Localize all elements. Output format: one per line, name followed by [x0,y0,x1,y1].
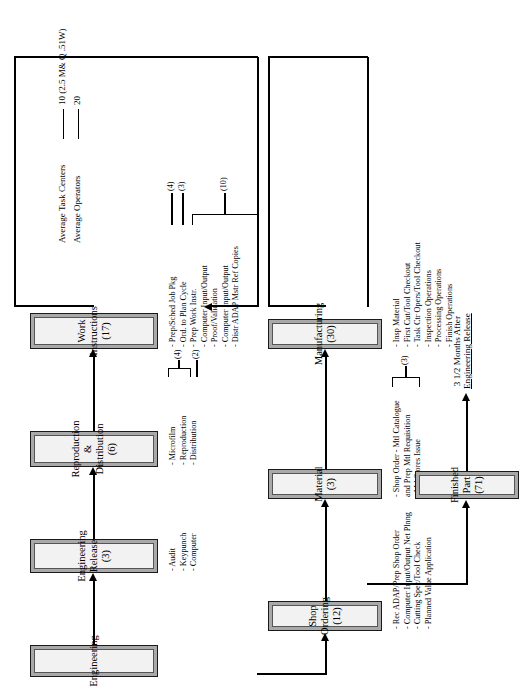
feedback-line-top [14,57,16,307]
bullets-reproduction-distribution: - Microfilm - Reproduction - Distributio… [168,416,200,465]
node-engineering-release-label: Engineering [76,530,88,581]
arrowhead-finished-part-to-note [462,393,470,401]
leader-ord-to-plan-cycle [182,193,184,225]
node-engineering-release[interactable]: Engineering Release (3) [30,539,158,573]
arrowhead-engineering-to-release [89,573,97,581]
leader-prep-sched-job-pkg [171,193,173,225]
mfg-feedback-bottom [367,57,369,307]
node-work-instructions-label2: Instructions (17) [88,306,112,356]
bullet-item: - Distr ADAP Mstr Ref Copies [231,246,242,347]
bullet-item: - Proof/Validation [210,246,221,347]
node-repro-label: Reproduction & [70,420,94,477]
connector-repro-to-work-instructions [93,355,95,431]
node-work-instructions-inner: Work Instructions (17) [34,317,154,345]
node-repro-label2: Distribution (6) [94,424,118,475]
bullet-item: - Ord. to Plan Cycle [179,246,190,347]
brace-repro-group4 [168,368,191,377]
bullet-item: - Audit [168,533,179,571]
stat-label-average-operators: Average Operators [72,175,82,243]
node-finished-part[interactable]: Finished Part (71) [415,471,519,499]
connector-material-to-manufacturing [325,355,327,469]
count-prep-sched-job-pkg: (4) [166,181,175,191]
stat-value-average-task-centers: 10 (2.5 M& Q .51W) [57,29,67,106]
node-manufacturing-label: Manufacturing (30) [313,303,337,365]
connector-corner-into-shop-ordering [257,674,327,676]
connector-into-shop-ordering [325,639,327,675]
connector-engineering-to-release [93,579,95,645]
bullet-item: - Task Ctr Opers/Tool Checkout [413,242,424,347]
feedback-line-drop-to-shop-ordering [210,306,258,308]
bullet-item: - Keypunch [179,533,190,571]
leader-distribution [196,360,198,377]
connector-release-to-repro [93,473,95,539]
bullet-item: - First Cut/Tool Checkout [403,242,414,347]
connector-finished-part-to-note [466,399,468,471]
node-manufacturing-inner: Manufacturing (30) [272,323,378,345]
node-engineering-inner: Engineering [34,649,154,673]
bullet-item: and Prep Mtl Requisition [403,400,414,497]
node-engineering-release-label2: Release (3) [88,540,112,573]
node-reproduction-distribution[interactable]: Reproduction & Distribution (6) [30,431,158,467]
node-engineering-release-inner: Engineering Release (3) [34,543,154,569]
bullets-work-instructions: - Prep/Sched Job Pkg - Ord. to Plan Cycl… [168,246,242,347]
bullet-item: - Rec ADAP/Prep Shop Order [392,512,403,629]
stat-value-average-operators: 20 [72,96,82,105]
brace-material-group3 [392,377,420,387]
stat-leader-average-task-centers [63,109,64,139]
arrowhead-into-shop-ordering [321,633,329,641]
count-work-instructions-group10: (10) [219,177,228,191]
feedback-line-vertical-down-right [14,57,258,59]
timing-note-line1: 3 1/2 Months After [452,313,462,389]
count-repro-group4: (4) [173,349,182,359]
node-shop-ordering-inner: Shop Ordering (12) [272,605,378,627]
brace-tick-repro-group4 [178,360,180,369]
bullet-item: - Computer Input/Output [200,246,211,347]
node-material[interactable]: Material (3) [268,469,382,499]
node-material-inner: Material (3) [272,473,378,495]
node-work-instructions-label: Work [76,319,88,342]
node-finished-part-inner: Finished Part (71) [419,475,515,495]
feedback-line-vertical-from-work-instructions [14,306,94,308]
bullet-item: - Distribution [189,416,200,465]
mfg-feedback-top [268,57,270,307]
bullet-item: - Computer Input/Output Net Plnng [403,512,414,629]
bullets-engineering-release: - Audit - Keypunch - Computer [168,533,200,571]
bullet-item: - Inspection Operations [424,242,435,347]
mfg-feedback-vertical-up [268,306,326,308]
node-material-label: Material (3) [313,466,337,502]
count-material-group3: (3) [400,355,409,365]
node-finished-part-label: Finished Part (71) [449,467,485,503]
node-work-instructions[interactable]: Work Instructions (17) [30,313,158,349]
timing-note: 3 1/2 Months After Engineering Release [452,313,472,389]
count-ord-to-plan-cycle: (3) [177,181,186,191]
stat-label-average-task-centers: Average Task Centers [57,164,67,243]
bullet-item: - Planned Value Application [424,512,435,629]
connector-shop-ordering-to-material [325,505,327,601]
bullet-item: - Computer [189,533,200,571]
bullet-item: - Computer Input/Output [221,246,232,347]
bullets-manufacturing: - Insp Material - First Cut/Tool Checkou… [392,242,455,347]
bullet-item: - Prep/Sched Job Pkg [168,246,179,347]
bullet-item: - Shop Order - Mtl Catalogue [392,400,403,497]
bullet-item: - Processing Operations [434,242,445,347]
count-distribution: (2) [191,349,200,359]
node-reproduction-distribution-inner: Reproduction & Distribution (6) [34,435,154,463]
connector-corner-into-finished-part [367,584,467,586]
bullet-item: - Prep Work Instr. [189,246,200,347]
feedback-line-bottom-to-shop-ordering [257,57,259,307]
node-shop-ordering[interactable]: Shop Ordering (12) [268,601,382,631]
bullet-item: - Microfilm [168,416,179,465]
bullet-item: - Insp Material [392,242,403,347]
stat-leader-average-operators [78,109,79,139]
bullet-item: - Reproduction [179,416,190,465]
node-manufacturing[interactable]: Manufacturing (30) [268,319,382,349]
node-shop-ordering-label: Shop Ordering (12) [307,597,343,635]
brace-work-instructions-group10 [192,214,258,225]
node-engineering[interactable]: Engineering [30,645,158,677]
bullets-shop-ordering: - Rec ADAP/Prep Shop Order - Computer In… [392,512,434,629]
arrowhead-feedback-to-shop-ordering [204,303,212,311]
mfg-feedback-vertical-down [268,57,368,59]
arrowhead-into-finished-part [462,500,470,508]
